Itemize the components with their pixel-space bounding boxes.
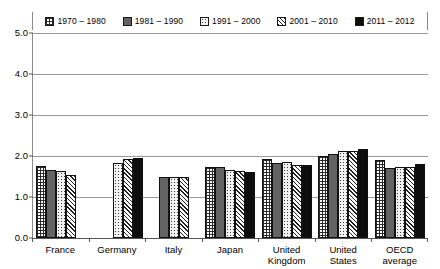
bar (292, 165, 302, 238)
bar-group (89, 33, 145, 238)
x-tick-label: United Kingdom (258, 238, 315, 266)
x-tick-label: Germany (89, 238, 146, 255)
bar (235, 171, 245, 238)
y-tick-label: 5.0 (15, 28, 28, 38)
x-axis-group: Japan (202, 238, 259, 269)
bar-group (372, 33, 428, 238)
bar (245, 172, 255, 238)
legend-item-2001-2010: 2001 – 2010 (277, 17, 337, 26)
x-tick-label: United States (315, 238, 372, 266)
legend-item-1981-1990: 1981 – 1990 (123, 17, 183, 26)
x-axis-group: Germany (89, 238, 146, 269)
bar (405, 167, 415, 238)
bar-group (259, 33, 315, 238)
y-tick-label: 1.0 (15, 192, 28, 202)
bar (375, 160, 385, 238)
bar (282, 162, 292, 238)
x-tick-mark (89, 238, 90, 242)
y-tick-label: 0.0 (15, 233, 28, 243)
bar (215, 167, 225, 238)
x-tick-mark (202, 238, 203, 242)
y-tick-label: 4.0 (15, 69, 28, 79)
bar (179, 177, 189, 239)
bar (46, 170, 56, 238)
bar (358, 149, 368, 238)
x-tick-mark (315, 238, 316, 242)
bar (225, 170, 235, 238)
x-tick-mark (145, 238, 146, 242)
bar (272, 163, 282, 238)
x-axis-group: United Kingdom (258, 238, 315, 269)
bar (385, 168, 395, 238)
bar (205, 167, 215, 238)
bar (338, 151, 348, 238)
x-tick-mark (427, 238, 428, 242)
legend-swatch-black-icon (355, 17, 364, 26)
bar (328, 154, 338, 238)
bar-group (146, 33, 202, 238)
x-tick-label: France (32, 238, 89, 255)
chart-legend: 1970 – 1980 1981 – 1990 1991 – 2000 2001… (32, 12, 428, 30)
legend-label: 1970 – 1980 (57, 17, 105, 26)
bar (113, 163, 123, 238)
bars-layer (33, 33, 428, 238)
x-axis: FranceGermanyItalyJapanUnited KingdomUni… (32, 238, 428, 269)
x-axis-group: United States (315, 238, 372, 269)
x-axis-group: France (32, 238, 89, 269)
y-tick-label: 2.0 (15, 151, 28, 161)
x-axis-group: OECD average (371, 238, 428, 269)
bar (415, 164, 425, 238)
legend-label: 1981 – 1990 (135, 17, 183, 26)
bar (262, 159, 272, 238)
bar (133, 158, 143, 238)
legend-label: 1991 – 2000 (212, 17, 260, 26)
x-tick-label: OECD average (371, 238, 428, 266)
x-tick-label: Italy (145, 238, 202, 255)
x-tick-mark (258, 238, 259, 242)
x-tick-mark (371, 238, 372, 242)
legend-item-1970-1980: 1970 – 1980 (45, 17, 105, 26)
legend-item-1991-2000: 1991 – 2000 (200, 17, 260, 26)
bar-group (202, 33, 258, 238)
bar-group (315, 33, 371, 238)
legend-swatch-diagonal-icon (277, 17, 286, 26)
bar-chart: 1970 – 1980 1981 – 1990 1991 – 2000 2001… (0, 0, 440, 269)
legend-label: 2011 – 2012 (367, 17, 415, 26)
bar (348, 151, 358, 238)
plot-area: 0.01.02.03.04.05.0 (32, 33, 428, 238)
y-tick-label: 3.0 (15, 110, 28, 120)
legend-label: 2001 – 2010 (289, 17, 337, 26)
bar (123, 159, 133, 238)
x-tick-mark (32, 238, 33, 242)
legend-swatch-dots-icon (200, 17, 209, 26)
bar (66, 175, 76, 238)
legend-swatch-solid-gray-icon (123, 17, 132, 26)
bar (36, 166, 46, 238)
bar (302, 165, 312, 238)
x-axis-group: Italy (145, 238, 202, 269)
bar (395, 167, 405, 238)
bar (318, 156, 328, 238)
bar (159, 177, 169, 238)
bar (56, 171, 66, 238)
legend-item-2011-2012: 2011 – 2012 (355, 17, 415, 26)
bar (169, 177, 179, 239)
x-tick-label: Japan (202, 238, 259, 255)
bar-group (33, 33, 89, 238)
legend-swatch-grid-icon (45, 17, 54, 26)
